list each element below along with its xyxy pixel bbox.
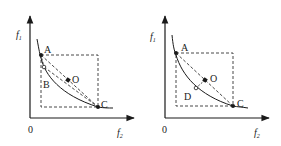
label-C: C xyxy=(237,98,244,109)
x-axis-label: f2 xyxy=(254,127,260,139)
y-axis-label: f1 xyxy=(16,29,22,41)
label-D: D xyxy=(184,91,191,102)
dashed-line-B-C xyxy=(44,67,98,107)
origin-label: 0 xyxy=(28,124,33,135)
diagram-canvas: f1 f2 0 A C O B f1 f2 0 xyxy=(0,0,281,146)
point-A xyxy=(39,53,43,57)
label-C: C xyxy=(101,99,108,110)
origin-label: 0 xyxy=(162,124,167,135)
y-axis-label: f1 xyxy=(150,31,156,43)
right-diagram: f1 f2 0 A C O D xyxy=(150,16,269,139)
point-O xyxy=(65,77,71,83)
label-O: O xyxy=(210,73,217,84)
point-A xyxy=(174,51,178,55)
x-axis-label: f2 xyxy=(117,127,123,139)
point-B xyxy=(42,65,46,69)
label-A: A xyxy=(181,42,189,53)
label-A: A xyxy=(44,44,52,55)
point-D xyxy=(194,86,198,90)
point-C xyxy=(96,105,100,109)
left-diagram: f1 f2 0 A C O B xyxy=(16,16,134,139)
label-O: O xyxy=(72,74,79,85)
point-C xyxy=(231,104,235,108)
label-B: B xyxy=(43,79,50,90)
